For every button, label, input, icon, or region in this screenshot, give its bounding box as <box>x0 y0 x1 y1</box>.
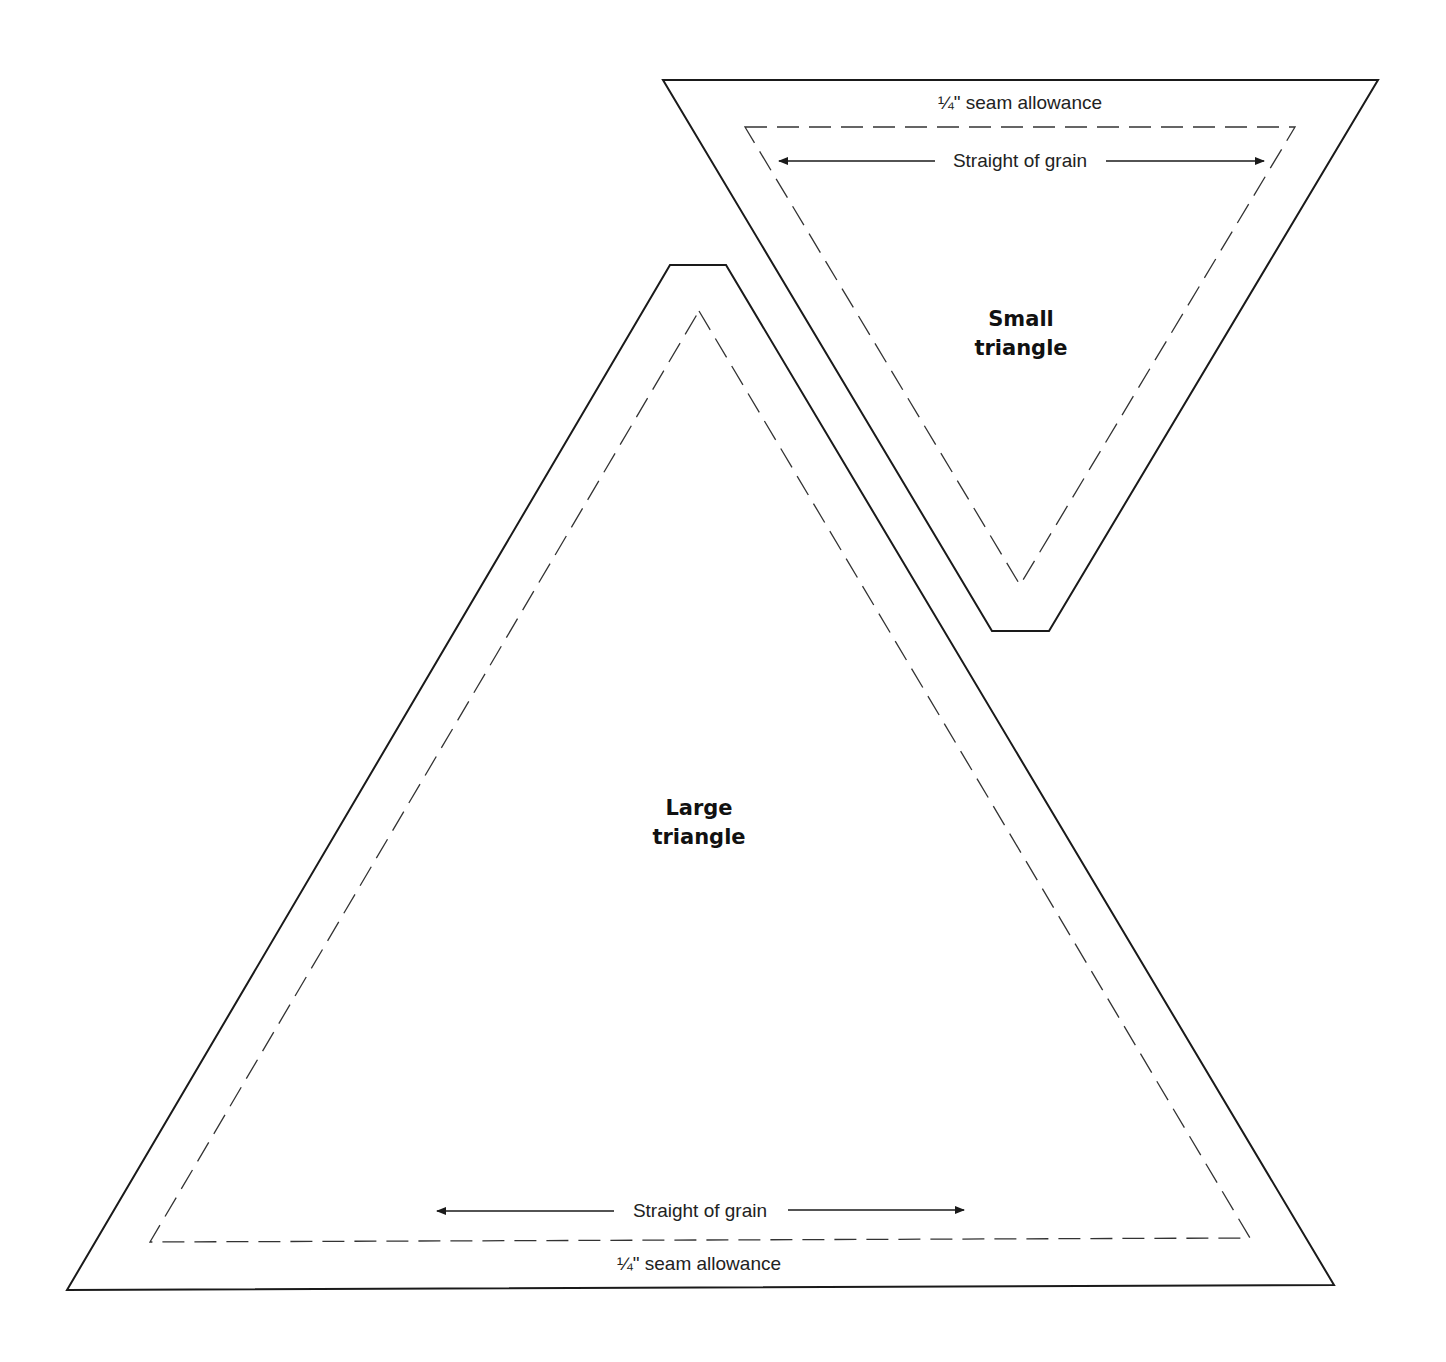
small-triangle-seam-label: ¼" seam allowance <box>938 92 1102 113</box>
large-triangle-grain-label: Straight of grain <box>633 1200 767 1221</box>
large-triangle-title-line1: Large <box>665 796 732 820</box>
large-triangle-template: Straight of grain ¼" seam allowance Larg… <box>67 265 1334 1290</box>
large-triangle-title-line2: triangle <box>652 825 745 849</box>
large-triangle-cut-line <box>67 265 1334 1290</box>
small-triangle-title-line1: Small <box>988 307 1054 331</box>
small-triangle-template: ¼" seam allowance Straight of grain Smal… <box>663 80 1378 631</box>
large-triangle-seam-line <box>150 311 1250 1242</box>
large-triangle-seam-label: ¼" seam allowance <box>617 1253 781 1274</box>
small-triangle-grain-label: Straight of grain <box>953 150 1087 171</box>
pattern-diagram: ¼" seam allowance Straight of grain Smal… <box>0 0 1446 1362</box>
small-triangle-title-line2: triangle <box>974 336 1067 360</box>
